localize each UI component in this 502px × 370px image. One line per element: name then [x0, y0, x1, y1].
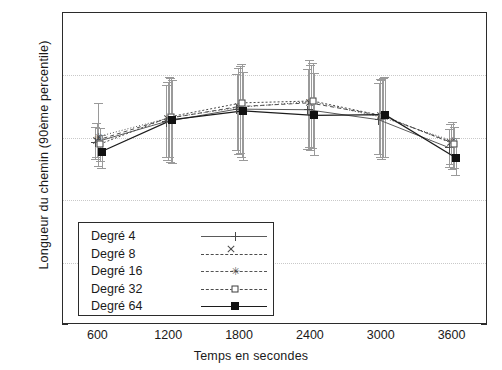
legend-swatch	[197, 245, 273, 263]
legend-swatch	[197, 227, 273, 245]
legend: Degré 4Degré 8Degré 16✳Degré 32Degré 64	[78, 222, 274, 316]
data-point	[309, 97, 316, 104]
legend-swatch: ✳	[197, 262, 273, 280]
x-axis-title: Temps en secondes	[0, 349, 502, 363]
data-point	[168, 116, 176, 124]
x-tick-label: 1200	[138, 328, 198, 342]
legend-label: Degré 32	[79, 282, 197, 296]
legend-swatch	[197, 280, 273, 298]
data-point	[451, 141, 458, 148]
series-line	[102, 111, 456, 158]
chart-figure: Longueur du chemin (90ème percentile) Te…	[0, 0, 502, 370]
data-point	[97, 141, 104, 148]
data-point	[238, 99, 245, 106]
x-tick-label: 3600	[422, 328, 482, 342]
x-tick-label: 600	[67, 328, 127, 342]
data-point	[310, 111, 318, 119]
x-tick-label: 1800	[209, 328, 269, 342]
series-line	[95, 109, 449, 148]
legend-item: Degré 8	[79, 245, 273, 263]
x-tick-label: 3000	[351, 328, 411, 342]
legend-item: Degré 16✳	[79, 262, 273, 280]
legend-label: Degré 16	[79, 264, 197, 278]
legend-swatch	[197, 297, 273, 315]
legend-label: Degré 4	[79, 229, 197, 243]
legend-item: Degré 4	[79, 227, 273, 245]
x-tick-label: 2400	[280, 328, 340, 342]
legend-item: Degré 32	[79, 280, 273, 298]
data-point	[98, 148, 106, 156]
legend-label: Degré 64	[79, 299, 197, 313]
legend-label: Degré 8	[79, 247, 197, 261]
data-point	[452, 154, 460, 162]
y-axis-title: Longueur du chemin (90ème percentile)	[37, 15, 51, 295]
data-point	[381, 111, 389, 119]
series-line	[98, 102, 452, 141]
legend-item: Degré 64	[79, 297, 273, 315]
data-point	[239, 107, 247, 115]
